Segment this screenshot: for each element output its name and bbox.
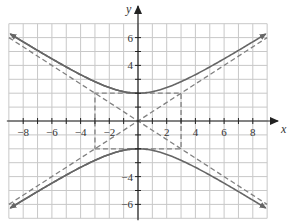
x-tick-label: −4 <box>75 126 87 138</box>
x-tick-label: −8 <box>17 126 29 138</box>
branch-left-arrow <box>10 34 138 93</box>
x-tick-label: 8 <box>250 126 256 138</box>
y-tick-label: 4 <box>128 59 134 71</box>
x-tick-label: −2 <box>103 126 115 138</box>
x-tick-label: 6 <box>221 126 227 138</box>
x-tick-label: 4 <box>193 126 199 138</box>
x-axis-label: x <box>280 122 287 136</box>
y-tick-label: 6 <box>128 32 134 44</box>
axes <box>7 6 278 220</box>
x-tick-label: −6 <box>46 126 58 138</box>
y-tick-label: −6 <box>121 198 133 210</box>
branch-left-arrow <box>10 149 138 208</box>
y-axis-label: y <box>125 2 132 16</box>
y-tick-label: −4 <box>121 171 133 183</box>
hyperbola-chart: −8−6−4−2246864−4−6 x y <box>0 0 294 223</box>
x-tick-label: 2 <box>164 126 170 138</box>
